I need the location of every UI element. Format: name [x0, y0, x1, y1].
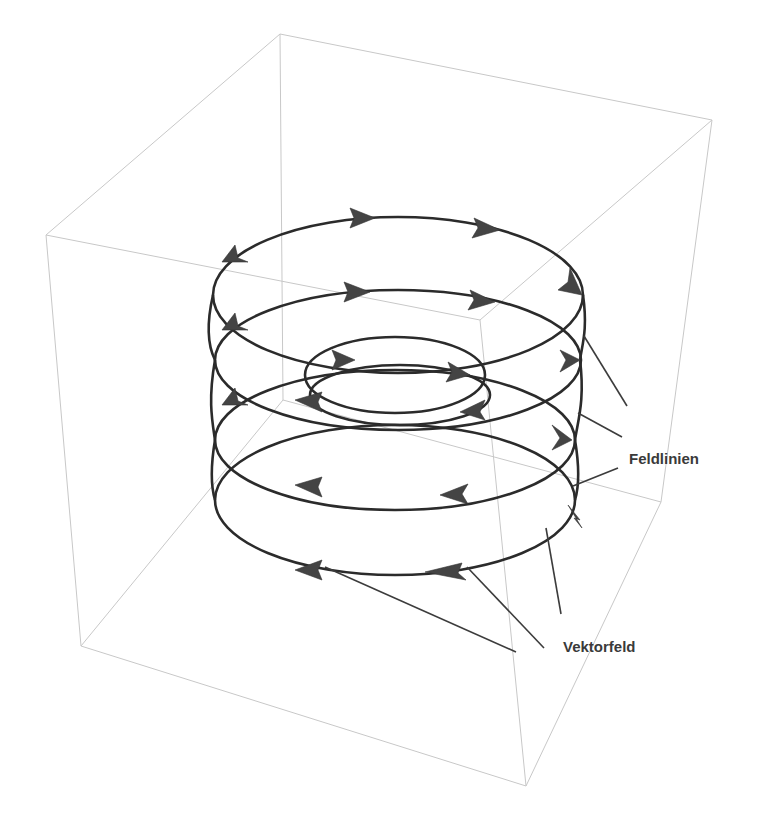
vektorfeld-label: Vektorfeld [563, 638, 636, 655]
feldlinien-label: Feldlinien [629, 450, 699, 467]
bounding-box [46, 34, 712, 786]
field-lines [209, 217, 585, 575]
field-line-diagram [0, 0, 758, 817]
diagram-canvas: Feldlinien Vektorfeld [0, 0, 758, 817]
